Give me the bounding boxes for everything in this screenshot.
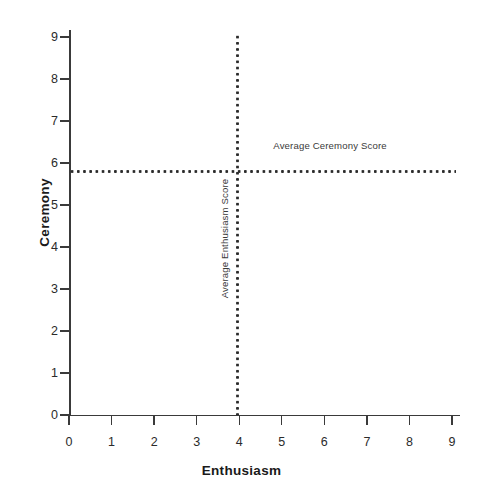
x-tick-6 bbox=[324, 416, 325, 425]
y-tick-7 bbox=[60, 120, 69, 121]
x-tick-5 bbox=[281, 416, 282, 425]
y-axis-title: Ceremony bbox=[37, 178, 52, 246]
y-tick-label-2: 2 bbox=[51, 325, 58, 338]
x-tick-label-1: 1 bbox=[108, 436, 115, 449]
x-tick-1 bbox=[111, 416, 112, 425]
y-tick-6 bbox=[60, 162, 69, 163]
y-tick-5 bbox=[60, 204, 69, 205]
y-tick-8 bbox=[60, 78, 69, 79]
x-tick-label-7: 7 bbox=[363, 436, 370, 449]
y-tick-label-7: 7 bbox=[51, 115, 58, 128]
x-tick-label-8: 8 bbox=[406, 436, 413, 449]
x-tick-label-9: 9 bbox=[449, 436, 456, 449]
x-axis-title: Enthusiasm bbox=[0, 463, 483, 478]
y-tick-2 bbox=[60, 330, 69, 331]
x-tick-9 bbox=[451, 416, 452, 425]
x-tick-label-5: 5 bbox=[278, 436, 285, 449]
x-tick-7 bbox=[366, 416, 367, 425]
y-tick-label-8: 8 bbox=[51, 73, 58, 86]
x-tick-label-0: 0 bbox=[66, 436, 73, 449]
y-tick-4 bbox=[60, 246, 69, 247]
y-tick-label-4: 4 bbox=[51, 241, 58, 254]
x-tick-label-2: 2 bbox=[151, 436, 158, 449]
x-tick-4 bbox=[239, 416, 240, 425]
y-tick-label-0: 0 bbox=[51, 409, 58, 422]
x-tick-0 bbox=[68, 416, 69, 425]
x-tick-2 bbox=[153, 416, 154, 425]
y-tick-label-6: 6 bbox=[51, 157, 58, 170]
y-tick-label-5: 5 bbox=[51, 199, 58, 212]
y-tick-label-9: 9 bbox=[51, 31, 58, 44]
y-tick-3 bbox=[60, 288, 69, 289]
y-tick-label-3: 3 bbox=[51, 283, 58, 296]
x-tick-8 bbox=[409, 416, 410, 425]
x-tick-3 bbox=[196, 416, 197, 425]
y-tick-label-1: 1 bbox=[51, 367, 58, 380]
x-tick-label-4: 4 bbox=[236, 436, 243, 449]
plot-area: 0123456789 0123456789 Average Ceremony S… bbox=[0, 0, 483, 493]
average-enthusiasm-reference-line bbox=[236, 34, 239, 415]
y-tick-9 bbox=[60, 36, 69, 37]
x-tick-label-6: 6 bbox=[321, 436, 328, 449]
scatter-chart: 0123456789 0123456789 Average Ceremony S… bbox=[0, 0, 483, 493]
y-tick-1 bbox=[60, 372, 69, 373]
x-axis-line bbox=[68, 415, 460, 417]
average-ceremony-annotation: Average Ceremony Score bbox=[273, 140, 387, 151]
x-tick-label-3: 3 bbox=[193, 436, 200, 449]
average-enthusiasm-annotation: Average Enthusiasm Score bbox=[220, 178, 231, 298]
average-ceremony-reference-line bbox=[69, 170, 456, 173]
y-axis-line bbox=[69, 30, 71, 416]
